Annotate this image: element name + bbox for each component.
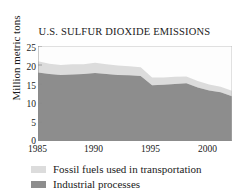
x-tick-label-1995: 1995 [141,145,160,155]
legend-swatch-icon-fossil-fuels [31,166,46,173]
x-tick-label-1990: 1990 [84,145,103,155]
y-tick-label-20: 20 [14,63,36,73]
legend-item-fossil-fuels[interactable]: Fossil fuels used in transportation [31,162,249,177]
chart-legend: Fossil fuels used in transportation Indu… [31,162,249,192]
chart-figure: U.S. SULFUR DIOXIDE EMISSIONS Million me… [0,0,249,194]
legend-label-industrial: Industrial processes [53,179,140,190]
legend-swatch-icon-industrial [31,181,46,188]
y-tick-label-5: 5 [14,119,36,129]
x-tick-label-2000: 2000 [198,145,217,155]
y-axis-label: Million metric tons [10,8,22,108]
legend-label-fossil-fuels: Fossil fuels used in transportation [53,164,202,175]
chart-title: U.S. SULFUR DIOXIDE EMISSIONS [0,26,249,37]
y-tick-label-25: 25 [14,44,36,54]
x-tick-label-1985: 1985 [28,145,47,155]
y-tick-label-15: 15 [14,82,36,92]
legend-item-industrial[interactable]: Industrial processes [31,177,249,192]
y-tick-label-10: 10 [14,100,36,110]
plot-area [38,46,232,141]
area-chart-svg [38,46,232,141]
